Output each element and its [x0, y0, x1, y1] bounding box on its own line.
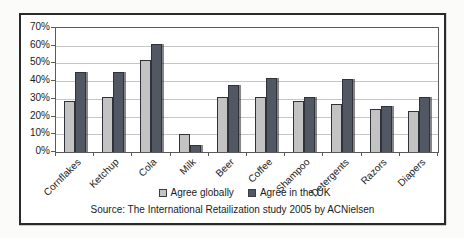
bar-agree-in-the-uk-shampoo: [304, 97, 315, 152]
chart-legend: Agree globally Agree in the UK: [33, 187, 456, 198]
y-axis-label-70: 70%: [22, 22, 50, 32]
y-axis-label-50: 50%: [22, 57, 50, 67]
x-axis-tick-2: [131, 152, 132, 156]
x-axis-tick-1: [93, 152, 94, 156]
bar-agree-globally-detergents: [331, 104, 342, 152]
bar-agree-globally-cornflakes: [64, 101, 75, 152]
x-axis-label-ketchup: Ketchup: [88, 157, 121, 190]
legend-swatch-agree-in-the-uk: [248, 189, 256, 197]
bar-agree-globally-cola: [140, 60, 151, 152]
legend-label-agree-in-the-uk: Agree in the UK: [260, 187, 331, 198]
x-axis-tick-3: [170, 152, 171, 156]
x-axis-label-razors: Razors: [360, 157, 389, 186]
x-axis-label-diapers: Diapers: [396, 157, 427, 188]
bar-agree-globally-shampoo: [293, 101, 304, 152]
bar-agree-in-the-uk-razors: [381, 106, 392, 152]
y-axis-label-40: 40%: [22, 75, 50, 85]
y-axis-tick-60: [51, 45, 55, 46]
x-axis-tick-7: [322, 152, 323, 156]
x-axis-label-milk: Milk: [178, 157, 198, 177]
x-axis-tick-10: [437, 152, 438, 156]
bar-agree-globally-diapers: [408, 111, 419, 152]
x-axis-tick-9: [399, 152, 400, 156]
y-axis-tick-70: [51, 27, 55, 28]
bar-agree-globally-milk: [179, 134, 190, 152]
bar-agree-globally-coffee: [255, 97, 266, 152]
chart-frame: 0%10%20%30%40%50%60%70% CornflakesKetchu…: [19, 13, 446, 225]
bar-agree-in-the-uk-beer: [228, 85, 239, 152]
bar-agree-in-the-uk-coffee: [266, 78, 277, 152]
x-axis-tick-5: [246, 152, 247, 156]
plot-area: [55, 27, 439, 153]
x-axis-label-beer: Beer: [214, 157, 236, 179]
gridline-50: [56, 63, 438, 64]
legend-swatch-agree-globally: [159, 189, 167, 197]
y-axis-label-0: 0%: [22, 146, 50, 156]
x-axis-labels: CornflakesKetchupColaMilkBeerCoffeeShamp…: [55, 157, 437, 211]
y-axis-label-10: 10%: [22, 128, 50, 138]
gridline-60: [56, 46, 438, 47]
x-axis-tick-6: [284, 152, 285, 156]
y-axis-tick-30: [51, 98, 55, 99]
y-axis-label-30: 30%: [22, 93, 50, 103]
bar-agree-in-the-uk-ketchup: [113, 72, 124, 152]
bar-agree-in-the-uk-milk: [190, 145, 201, 152]
bar-agree-in-the-uk-cola: [151, 44, 162, 152]
bar-agree-in-the-uk-detergents: [342, 79, 353, 152]
x-axis-tick-8: [361, 152, 362, 156]
bar-agree-globally-ketchup: [102, 97, 113, 152]
x-axis-label-cola: Cola: [137, 157, 159, 179]
bar-agree-in-the-uk-cornflakes: [75, 72, 86, 152]
bar-agree-globally-razors: [370, 109, 381, 152]
bar-agree-globally-beer: [217, 97, 228, 152]
x-axis-tick-0: [55, 152, 56, 156]
legend-item-agree-in-the-uk: Agree in the UK: [248, 187, 331, 198]
legend-item-agree-globally: Agree globally: [159, 187, 234, 198]
y-axis-tick-20: [51, 116, 55, 117]
legend-label-agree-globally: Agree globally: [171, 187, 234, 198]
x-axis-label-coffee: Coffee: [246, 157, 274, 185]
source-note: Source: The International Retailization …: [21, 204, 444, 215]
y-axis-tick-40: [51, 80, 55, 81]
x-axis-tick-4: [208, 152, 209, 156]
y-axis-label-20: 20%: [22, 111, 50, 121]
y-axis-tick-50: [51, 62, 55, 63]
bar-agree-in-the-uk-diapers: [419, 97, 430, 152]
y-axis-tick-10: [51, 133, 55, 134]
y-axis-label-60: 60%: [22, 40, 50, 50]
